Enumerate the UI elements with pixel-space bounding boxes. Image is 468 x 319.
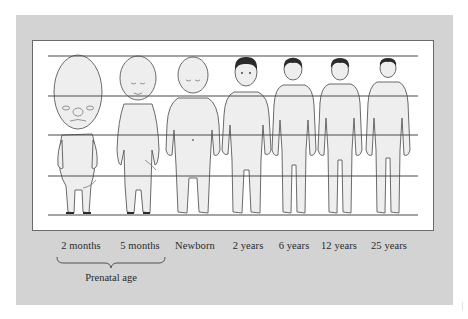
prenatal-brace (57, 257, 165, 268)
label-12-years: 12 years (321, 240, 357, 251)
label-2-years: 2 years (233, 240, 264, 251)
label-25-years: 25 years (371, 240, 407, 251)
label-2-months: 2 months (61, 240, 101, 251)
label-prenatal-age: Prenatal age (85, 272, 137, 283)
label-newborn: Newborn (175, 240, 215, 251)
body-proportions-illustration: .skin { fill:#eeeeee; stroke:#5a5a5a; st… (0, 0, 468, 319)
corner-artifact (462, 302, 463, 310)
label-6-years: 6 years (279, 240, 310, 251)
label-5-months: 5 months (120, 240, 160, 251)
